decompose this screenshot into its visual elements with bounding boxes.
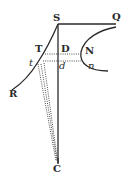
dotted-line-t-c-3	[44, 63, 58, 161]
label-n: N	[85, 45, 94, 56]
label-s: S	[53, 12, 60, 23]
label-d: D	[61, 43, 70, 54]
geometric-diagram: S Q T D N t d n R C	[0, 0, 131, 185]
label-t-small: t	[29, 57, 34, 68]
label-c: C	[53, 163, 61, 174]
label-q: Q	[112, 11, 121, 22]
label-n-small: n	[88, 60, 94, 71]
label-t: T	[35, 43, 43, 54]
label-r: R	[9, 88, 18, 99]
dotted-line-t-c-2	[41, 64, 57, 161]
label-d-small: d	[59, 60, 65, 71]
curve-s-r	[12, 24, 58, 90]
dotted-line-t-c-1	[38, 64, 56, 161]
